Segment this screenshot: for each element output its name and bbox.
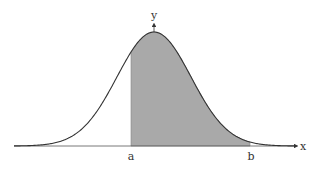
- upper-bound-label: b: [247, 150, 254, 163]
- normal-curve-diagram: y x a b: [0, 0, 314, 174]
- x-axis-label: x: [300, 140, 307, 153]
- y-axis-label: y: [150, 9, 158, 22]
- shaded-area: [131, 32, 250, 146]
- lower-bound-label: a: [128, 150, 135, 163]
